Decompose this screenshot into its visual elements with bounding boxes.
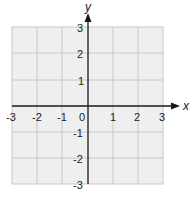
y-axis-arrow-icon	[85, 13, 92, 22]
x-tick: 3	[159, 111, 165, 123]
x-tick: 1	[110, 111, 116, 123]
x-tick: -2	[32, 111, 42, 123]
y-axis-label: y	[84, 0, 92, 14]
y-tick: 1	[78, 75, 84, 87]
y-tick: -2	[73, 153, 83, 165]
y-tick: 3	[77, 22, 83, 34]
y-tick: -3	[73, 179, 83, 191]
y-tick: 2	[77, 48, 83, 60]
x-tick: 2	[134, 111, 140, 123]
x-tick: -1	[57, 111, 67, 123]
x-axis-label: x	[182, 99, 190, 113]
y-tick: -1	[73, 127, 83, 139]
x-tick: -3	[6, 111, 16, 123]
x-axis-arrow-icon	[171, 103, 180, 110]
origin-label: 0	[79, 111, 85, 123]
coordinate-plane: x y -3 -2 -1 0 1 2 3 3 2 1 -1 -2 -3	[0, 0, 195, 199]
